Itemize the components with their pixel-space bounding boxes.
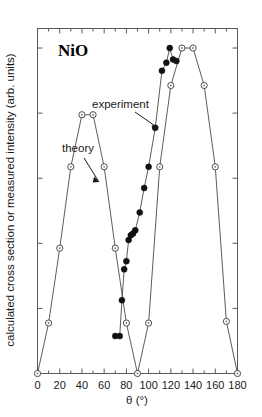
data-point-center-theory [59, 247, 61, 249]
data-point-experiment [173, 58, 179, 64]
x-tick-label: 0 [34, 379, 40, 391]
data-point-center-theory [148, 322, 150, 324]
data-point-experiment [132, 227, 138, 233]
data-point-experiment [119, 297, 125, 303]
data-point-experiment [146, 164, 152, 170]
x-tick-label: 80 [120, 379, 132, 391]
x-tick-label: 140 [184, 379, 202, 391]
x-axis-major-ticks [38, 29, 238, 374]
data-point-center-theory [114, 247, 116, 249]
x-axis-tick-labels: 020406080100120140160180 [34, 379, 246, 391]
data-point-center-theory [125, 322, 127, 324]
experiment-leader-line [135, 112, 158, 128]
x-tick-label: 20 [54, 379, 66, 391]
data-point-center-theory [214, 166, 216, 168]
x-tick-label: 160 [206, 379, 224, 391]
data-line-experiment [115, 48, 176, 336]
theory-annotation-label: theory [62, 142, 94, 154]
data-point-center-theory [48, 322, 50, 324]
data-point-experiment [121, 266, 127, 272]
experiment-annotation-label: experiment [92, 98, 150, 110]
data-point-experiment [137, 209, 143, 215]
data-point-center-theory [159, 166, 161, 168]
sample-label: NiO [58, 41, 88, 60]
x-tick-label: 180 [228, 379, 246, 391]
data-point-experiment [123, 258, 129, 264]
chart-svg: 020406080100120140160180 θ (°) calculate… [0, 0, 262, 417]
data-point-center-theory [237, 373, 239, 375]
data-point-center-theory [37, 373, 39, 375]
data-point-center-theory [192, 47, 194, 49]
data-point-experiment [141, 185, 147, 191]
data-point-center-theory [92, 114, 94, 116]
x-tick-label: 60 [98, 379, 110, 391]
plot-frame [38, 29, 238, 374]
figure-container: 020406080100120140160180 θ (°) calculate… [0, 0, 262, 417]
series-experiment [112, 45, 179, 339]
data-point-experiment [117, 333, 123, 339]
theory-leader-line [84, 158, 99, 182]
data-point-center-theory [181, 47, 183, 49]
data-point-center-theory [170, 85, 172, 87]
data-point-experiment [167, 45, 173, 51]
data-point-experiment [159, 68, 165, 74]
data-point-center-theory [137, 373, 139, 375]
data-point-center-theory [225, 320, 227, 322]
data-point-center-theory [103, 166, 105, 168]
x-tick-label: 40 [76, 379, 88, 391]
data-point-center-theory [81, 114, 83, 116]
x-axis-minor-ticks [49, 29, 227, 374]
data-point-center-theory [203, 85, 205, 87]
x-tick-label: 100 [139, 379, 157, 391]
x-tick-label: 120 [162, 379, 180, 391]
data-point-center-theory [70, 166, 72, 168]
data-point-experiment [163, 60, 169, 66]
x-axis-title: θ (°) [126, 394, 148, 406]
y-axis-title: calculated cross section or measured int… [4, 53, 16, 347]
